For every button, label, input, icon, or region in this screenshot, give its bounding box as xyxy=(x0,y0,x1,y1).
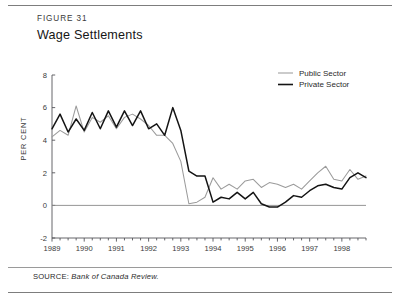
x-tick-label: 1995 xyxy=(237,244,254,253)
source-key: SOURCE: xyxy=(33,272,69,281)
y-tick-label: 4 xyxy=(43,136,47,145)
source-note: SOURCE: Bank of Canada Review. xyxy=(33,272,159,281)
x-tick-label: 1991 xyxy=(108,244,125,253)
legend-label: Private Sector xyxy=(299,80,350,89)
chart-plot-area: 86420-2 19891990199119921993199419951996… xyxy=(0,0,400,298)
y-axis-title: PER CENT xyxy=(19,117,28,161)
x-tick-label: 1993 xyxy=(172,244,189,253)
y-tick-label: 2 xyxy=(43,169,47,178)
wage-settlements-line-chart: 86420-2 19891990199119921993199419951996… xyxy=(0,0,400,298)
x-tick-label: 1992 xyxy=(140,244,157,253)
y-tick-labels: 86420-2 xyxy=(40,71,47,243)
x-tick-label: 1989 xyxy=(44,244,61,253)
chart-legend: Public SectorPrivate Sector xyxy=(278,69,350,90)
y-tick-label: 6 xyxy=(43,103,47,112)
y-axis-title-text: PER CENT xyxy=(19,117,28,161)
source-value: Bank of Canada Review. xyxy=(71,272,159,281)
figure-card: FIGURE 31 Wage Settlements 86420-2 19891… xyxy=(0,0,400,298)
x-tick-label: 1998 xyxy=(333,244,350,253)
series-line-private-sector xyxy=(52,108,366,207)
y-tick-label: -2 xyxy=(40,234,47,243)
x-tick-label: 1996 xyxy=(269,244,286,253)
y-tick-label: 8 xyxy=(43,71,47,80)
x-tick-labels: 1989199019911992199319941995199619971998 xyxy=(44,244,351,253)
legend-label: Public Sector xyxy=(299,69,346,78)
x-tick-label: 1994 xyxy=(205,244,222,253)
x-tick-label: 1997 xyxy=(301,244,318,253)
x-tick-label: 1990 xyxy=(76,244,93,253)
chart-axes xyxy=(52,75,366,242)
y-tick-label: 0 xyxy=(43,201,47,210)
chart-series-group xyxy=(52,106,366,207)
